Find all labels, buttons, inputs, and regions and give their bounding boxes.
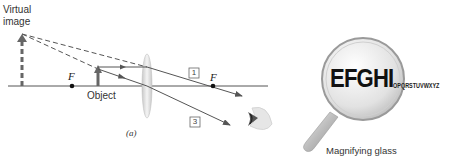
- virtual-image-label: Virtual image: [3, 4, 31, 28]
- ray-1-arrow-icon: [120, 65, 126, 70]
- focal-point-right: [211, 84, 216, 89]
- object-label: Object: [87, 90, 116, 101]
- magnifying-glass-icon: [304, 38, 405, 152]
- figure-caption: (a): [126, 128, 137, 138]
- ray-3-refracted: [147, 86, 230, 125]
- magnifying-glass-caption: Magnifying glass: [326, 145, 397, 156]
- virtual-ray-dashed-1: [22, 34, 147, 67]
- focal-label-left: F: [68, 70, 75, 82]
- magnified-text: EFGHI: [330, 63, 393, 94]
- virtual-label-line2: image: [3, 16, 31, 28]
- eye-icon: [248, 107, 272, 129]
- ray-3-arrow-icon: [118, 74, 126, 79]
- ray-3-label: 3: [190, 117, 200, 127]
- focal-point-left: [70, 84, 75, 89]
- ray-1-label: 1: [189, 68, 199, 78]
- virtual-label-line1: Virtual: [3, 4, 31, 16]
- unmagnified-text: OPQRSTUVWXYZ: [393, 82, 439, 89]
- focal-label-right: F: [210, 71, 217, 83]
